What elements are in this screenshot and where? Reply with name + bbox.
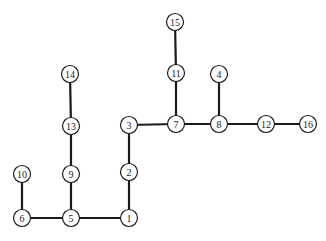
node-label: 5 — [69, 213, 74, 224]
node-8: 8 — [211, 116, 228, 133]
node-14: 14 — [62, 66, 79, 83]
node-label: 6 — [20, 213, 25, 224]
node-label: 15 — [170, 17, 180, 28]
node-label: 13 — [66, 121, 76, 132]
node-label: 3 — [127, 120, 132, 131]
node-2: 2 — [121, 164, 138, 181]
node-6: 6 — [14, 210, 31, 227]
nodes: 12345678910111213141516 — [14, 14, 317, 227]
node-1: 1 — [121, 210, 138, 227]
node-label: 8 — [217, 119, 222, 130]
node-7: 7 — [168, 116, 185, 133]
node-11: 11 — [168, 65, 185, 82]
node-5: 5 — [63, 210, 80, 227]
node-9: 9 — [63, 166, 80, 183]
node-12: 12 — [258, 116, 275, 133]
node-13: 13 — [63, 118, 80, 135]
node-label: 16 — [303, 119, 313, 130]
node-label: 2 — [127, 167, 132, 178]
node-label: 4 — [217, 69, 222, 80]
node-label: 1 — [127, 213, 132, 224]
node-label: 14 — [65, 69, 75, 80]
node-3: 3 — [121, 117, 138, 134]
node-label: 7 — [174, 119, 179, 130]
node-label: 10 — [17, 169, 27, 180]
node-16: 16 — [300, 116, 317, 133]
node-label: 9 — [69, 169, 74, 180]
node-10: 10 — [14, 166, 31, 183]
node-4: 4 — [211, 66, 228, 83]
node-label: 12 — [261, 119, 271, 130]
node-15: 15 — [167, 14, 184, 31]
node-label: 11 — [171, 68, 181, 79]
tree-diagram: 12345678910111213141516 — [0, 0, 326, 241]
